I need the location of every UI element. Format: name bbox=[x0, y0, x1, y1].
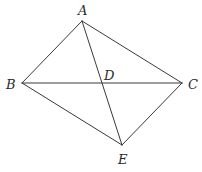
label-a: A bbox=[77, 3, 87, 18]
segments-group bbox=[22, 21, 182, 145]
label-b: B bbox=[5, 77, 16, 92]
labels-group: A B C D E bbox=[5, 3, 198, 167]
label-d: D bbox=[103, 68, 115, 83]
segment-ce bbox=[122, 83, 182, 145]
segment-ac bbox=[82, 21, 182, 83]
label-e: E bbox=[117, 152, 128, 167]
label-c: C bbox=[188, 77, 198, 92]
geometry-figure: A B C D E bbox=[0, 0, 202, 172]
geometry-svg: A B C D E bbox=[0, 0, 202, 172]
segment-ab bbox=[22, 21, 82, 83]
segment-be bbox=[22, 83, 122, 145]
